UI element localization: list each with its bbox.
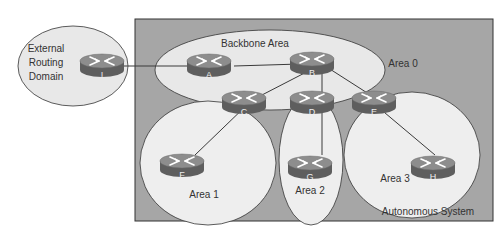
area-1-label: Area 1 [189,189,219,200]
backbone-area-label: Backbone Area [221,38,289,49]
area-0-label: Area 0 [388,58,418,69]
area-3-label: Area 3 [380,173,410,184]
svg-text:E: E [371,107,377,117]
svg-text:C: C [241,107,248,117]
ospf-area-diagram: I A B C D E F G H External Routing Domai… [0,0,503,235]
svg-text:H: H [430,172,437,182]
svg-text:B: B [309,68,315,78]
autonomous-system-label: Autonomous System [382,206,474,217]
svg-text:D: D [309,107,316,117]
external-label-line2: Routing [29,57,63,68]
svg-text:A: A [206,70,212,80]
svg-text:I: I [101,70,104,80]
external-label-line1: External [28,43,65,54]
svg-text:F: F [179,170,185,180]
external-label-line3: Domain [29,71,63,82]
area-2-label: Area 2 [295,185,325,196]
svg-text:G: G [306,172,313,182]
